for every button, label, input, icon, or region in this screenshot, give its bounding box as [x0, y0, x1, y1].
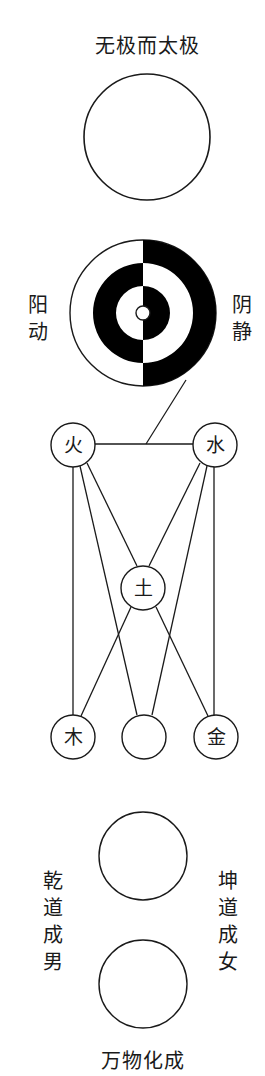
- metal-label: 金: [194, 715, 238, 759]
- wanwu-circle: [99, 940, 187, 1028]
- wanwu-caption: 万物化成: [95, 1049, 191, 1073]
- earth-label: 土: [121, 566, 165, 610]
- kun-dao-label: 坤道成女: [216, 868, 240, 976]
- yin-jing-label: 阴静: [230, 292, 254, 346]
- fire-label: 火: [51, 423, 95, 467]
- taiji-circle: [70, 240, 216, 386]
- wuji-circle: [84, 74, 210, 200]
- middle-bottom-node: [122, 715, 166, 759]
- yang-dong-label: 阳动: [26, 292, 50, 346]
- qian-kun-circle: [99, 812, 187, 900]
- qian-dao-label: 乾道成男: [41, 868, 65, 976]
- water-label: 水: [193, 423, 237, 467]
- diagram-title: 无极而太极: [90, 34, 204, 58]
- wood-label: 木: [51, 715, 95, 759]
